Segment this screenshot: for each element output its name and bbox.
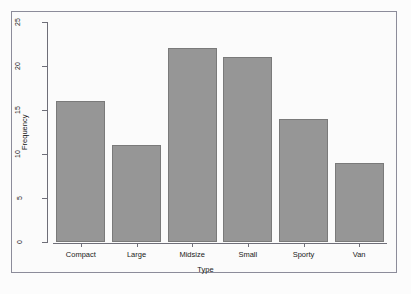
x-axis-line (53, 243, 387, 244)
bar (335, 163, 384, 242)
y-axis-tick-label: 5 (0, 194, 22, 202)
x-axis-tick (192, 243, 193, 247)
bar-chart-figure: 0510152025 CompactLargeMidsizeSmallSport… (0, 0, 411, 294)
x-axis-tick-label: Large (127, 250, 146, 259)
y-axis-tick-label-text: 5 (16, 196, 24, 200)
x-axis-tick (304, 243, 305, 247)
y-axis-tick-label: 20 (0, 62, 22, 70)
x-axis-tick-label: Midsize (179, 250, 204, 259)
x-axis-tick (359, 243, 360, 247)
y-axis-tick-label: 25 (0, 18, 22, 26)
x-axis-tick (248, 243, 249, 247)
x-axis-tick-label: Small (238, 250, 257, 259)
bar (223, 57, 272, 242)
x-axis-title: Type (0, 265, 411, 274)
y-axis-tick-label-text: 10 (14, 150, 22, 158)
y-axis-tick-label: 0 (0, 238, 22, 246)
x-axis-tick-label: Van (353, 250, 366, 259)
bar (112, 145, 161, 242)
bar (279, 119, 328, 242)
y-axis-line (47, 22, 48, 243)
y-axis-tick (42, 66, 47, 67)
y-axis-tick-label: 15 (0, 106, 22, 114)
y-axis-tick-label-text: 15 (14, 106, 22, 114)
bar (56, 101, 105, 242)
y-axis-tick-label-text: 20 (14, 62, 22, 70)
bar (168, 48, 217, 242)
x-axis-tick (137, 243, 138, 247)
y-axis-tick-label-text: 25 (14, 18, 22, 26)
x-axis-tick (81, 243, 82, 247)
y-axis-tick-label-text: 0 (16, 240, 24, 244)
x-axis-tick-label: Compact (66, 250, 96, 259)
plot-area: 0510152025 CompactLargeMidsizeSmallSport… (0, 0, 411, 294)
y-axis-tick (42, 110, 47, 111)
y-axis-tick-label: 10 (0, 150, 22, 158)
y-axis-tick (42, 154, 47, 155)
y-axis-tick (42, 22, 47, 23)
y-axis-title-text: Frequency (20, 115, 29, 150)
y-axis-tick (42, 242, 47, 243)
y-axis-tick (42, 198, 47, 199)
x-axis-tick-label: Sporty (293, 250, 315, 259)
